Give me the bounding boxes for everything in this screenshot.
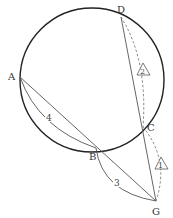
arc-label-4: 4 [46, 113, 52, 123]
point-label-B: B [89, 151, 96, 162]
point-label-C: C [147, 122, 155, 133]
arc-label-3: 3 [114, 178, 120, 188]
point-label-D: D [117, 4, 125, 15]
arc-label-2: 2 [140, 67, 145, 76]
triangle-marker-1: 1 [155, 157, 168, 170]
arc-label-1: 1 [158, 161, 163, 170]
triangle-marker-2: 2 [137, 63, 150, 76]
point-label-A: A [7, 71, 16, 82]
geometry-diagram: A B C D G 4 3 2 1 [0, 0, 173, 218]
point-label-G: G [152, 206, 160, 217]
